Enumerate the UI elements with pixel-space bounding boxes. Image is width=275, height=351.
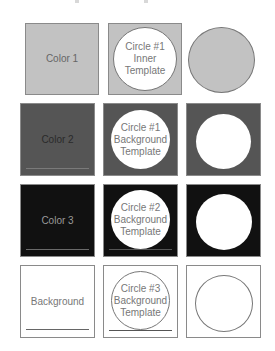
color-3-swatch: Color 3 (20, 184, 95, 257)
template-label: Circle #1 Inner Template (114, 41, 176, 77)
cropped-heading-remnant (75, 0, 79, 3)
swatch-label: Background (31, 296, 84, 308)
color-1-swatch: Color 1 (25, 23, 99, 95)
baseline-line (26, 249, 89, 250)
swatch-label: Color 1 (46, 53, 78, 65)
result-circle (195, 275, 253, 332)
baseline-line (109, 249, 172, 250)
circle-2-background-template-tile: Circle #2 Background Template (103, 184, 178, 257)
template-circle: Circle #3 Background Template (111, 271, 170, 330)
result-circle (196, 114, 251, 169)
circle-1-background-template-tile: Circle #1 Background Template (103, 103, 178, 176)
baseline-line (26, 168, 89, 169)
color-3-result-tile (186, 184, 261, 257)
color-1-result-circle (188, 27, 255, 93)
template-circle: Circle #1 Inner Template (113, 27, 177, 91)
circle-1-inner-template-tile: Circle #1 Inner Template (108, 23, 182, 95)
cropped-heading-remnant (144, 0, 148, 3)
baseline-line (109, 330, 172, 331)
template-label: Circle #1 Background Template (114, 122, 167, 158)
color-2-result-tile (186, 103, 261, 176)
swatch-label: Color 2 (41, 134, 73, 146)
template-label: Circle #2 Background Template (114, 202, 167, 238)
background-swatch: Background (20, 265, 95, 338)
template-label: Circle #3 Background Template (114, 283, 167, 319)
result-circle (196, 194, 252, 250)
background-result-tile (186, 265, 261, 338)
swatch-label: Color 3 (41, 215, 73, 227)
circle-3-background-template-tile: Circle #3 Background Template (103, 265, 178, 338)
template-circle: Circle #1 Background Template (111, 110, 170, 169)
template-circle: Circle #2 Background Template (111, 190, 170, 249)
color-2-swatch: Color 2 (20, 103, 95, 176)
baseline-line (26, 329, 89, 330)
